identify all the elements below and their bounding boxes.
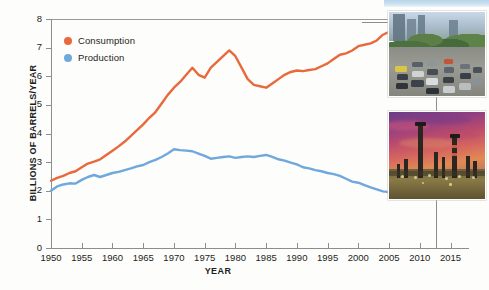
traffic-photo-inset bbox=[388, 11, 486, 97]
oil-production-consumption-chart: BILLIONS OF BARRELS/YEAR YEAR 876543210 … bbox=[0, 0, 489, 290]
traffic-photo-art bbox=[389, 12, 485, 96]
refinery-photo-inset bbox=[388, 111, 486, 200]
leader-line-refinery-vertical bbox=[436, 200, 437, 248]
leader-line-traffic-horizontal bbox=[362, 22, 388, 23]
leader-line-traffic-vertical bbox=[436, 97, 437, 111]
refinery-photo-art bbox=[389, 112, 485, 199]
